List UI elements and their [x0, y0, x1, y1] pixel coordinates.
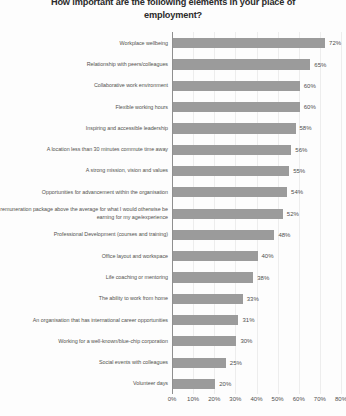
bar-category-label: Relationship with peers/colleagues [0, 53, 168, 76]
bar-value-label: 52% [287, 202, 299, 225]
x-axis-tick-label: 20% [208, 396, 220, 402]
bar [173, 230, 274, 240]
bar-category-label: Workplace wellbeing [0, 32, 168, 55]
x-axis-tick-label: 80% [335, 396, 346, 402]
x-axis-tick-label: 10% [187, 396, 199, 402]
bar-row: Opportunities for advancement within the… [0, 181, 346, 204]
plot-area: Workplace wellbeing72%Relationship with … [0, 32, 346, 394]
bar-row: Inspiring and accessible leadership58% [0, 117, 346, 140]
bar-row: An organisation that has international c… [0, 309, 346, 332]
bar-category-label: Inspiring and accessible leadership [0, 117, 168, 140]
bar-value-label: 33% [247, 288, 259, 311]
bar [173, 379, 215, 389]
bar [173, 358, 226, 368]
bar [173, 166, 289, 176]
bar-category-label: Office layout and workspace [0, 245, 168, 268]
bar [173, 187, 287, 197]
bar-row: Social events with colleagues25% [0, 351, 346, 374]
bar-value-label: 48% [278, 224, 290, 247]
bar [173, 209, 283, 219]
bar-value-label: 20% [219, 373, 231, 396]
bar-value-label: 60% [304, 96, 316, 119]
bar-row: A strong mission, vision and values55% [0, 160, 346, 183]
bar-row: Collaborative work environment60% [0, 75, 346, 98]
x-axis: 0%10%20%30%40%50%60%70%80% [172, 396, 341, 408]
bar-row: A remuneration package above the average… [0, 202, 346, 225]
bar-row: Workplace wellbeing72% [0, 32, 346, 55]
bar-category-label: Flexible working hours [0, 96, 168, 119]
bar-row: Volunteer days20% [0, 373, 346, 396]
bar-category-label: A location less than 30 minutes commute … [0, 138, 168, 161]
bar-row: Working for a well-known/blue-chip corpo… [0, 330, 346, 353]
x-axis-tick-label: 50% [272, 396, 284, 402]
bar-category-label: Professional Development (courses and tr… [0, 224, 168, 247]
bar-category-label: Collaborative work environment [0, 75, 168, 98]
bar-rows: Workplace wellbeing72%Relationship with … [0, 32, 346, 394]
bar-value-label: 40% [262, 245, 274, 268]
x-axis-tick-label: 30% [229, 396, 241, 402]
bar-category-label: An organisation that has international c… [0, 309, 168, 332]
bar-row: Flexible working hours60% [0, 96, 346, 119]
bar [173, 145, 291, 155]
bar-chart: How important are the following elements… [0, 0, 346, 416]
bar-row: Life coaching or mentoring38% [0, 266, 346, 289]
bar [173, 102, 300, 112]
bar [173, 251, 258, 261]
bar-value-label: 25% [230, 351, 242, 374]
bar-category-label: Life coaching or mentoring [0, 266, 168, 289]
bar-category-label: A remuneration package above the average… [0, 202, 168, 225]
bar-row: Professional Development (courses and tr… [0, 224, 346, 247]
bar-value-label: 65% [314, 53, 326, 76]
bar-value-label: 72% [329, 32, 341, 55]
bar [173, 336, 236, 346]
bar [173, 123, 296, 133]
bar-value-label: 60% [304, 75, 316, 98]
bar-value-label: 58% [300, 117, 312, 140]
x-axis-tick-label: 60% [293, 396, 305, 402]
bar-row: The ability to work from home33% [0, 288, 346, 311]
bar [173, 38, 325, 48]
x-axis-tick-label: 0% [168, 396, 177, 402]
bar-row: A location less than 30 minutes commute … [0, 138, 346, 161]
chart-title: How important are the following elements… [28, 0, 318, 22]
bar [173, 294, 243, 304]
x-axis-tick-label: 40% [250, 396, 262, 402]
bar-category-label: Opportunities for advancement within the… [0, 181, 168, 204]
x-axis-tick-label: 70% [314, 396, 326, 402]
bar-category-label: Working for a well-known/blue-chip corpo… [0, 330, 168, 353]
bar-value-label: 55% [293, 160, 305, 183]
bar-category-label: A strong mission, vision and values [0, 160, 168, 183]
bar-value-label: 30% [240, 330, 252, 353]
bar [173, 81, 300, 91]
bar-row: Relationship with peers/colleagues65% [0, 53, 346, 76]
bar-value-label: 31% [242, 309, 254, 332]
bar [173, 315, 238, 325]
bar-category-label: The ability to work from home [0, 288, 168, 311]
bar [173, 59, 310, 69]
bar-category-label: Social events with colleagues [0, 351, 168, 374]
bar-row: Office layout and workspace40% [0, 245, 346, 268]
bar-value-label: 38% [257, 266, 269, 289]
bar [173, 272, 253, 282]
bar-value-label: 56% [295, 138, 307, 161]
bar-category-label: Volunteer days [0, 373, 168, 396]
bar-value-label: 54% [291, 181, 303, 204]
